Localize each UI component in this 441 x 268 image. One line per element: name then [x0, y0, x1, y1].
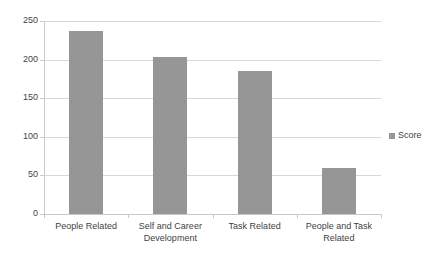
x-axis-label: Self and Career Development — [128, 221, 212, 244]
x-axis-category-labels: People RelatedSelf and Career Developmen… — [44, 221, 381, 261]
plot-area — [44, 21, 381, 214]
x-tick-mark-0 — [44, 214, 45, 218]
x-tick-mark-4 — [381, 214, 382, 218]
bar-chart: 050100150200250 People RelatedSelf and C… — [0, 0, 441, 268]
x-tick-mark-1 — [128, 214, 129, 218]
gridline-250 — [44, 21, 381, 22]
y-tick-mark-200 — [40, 60, 44, 61]
y-tick-label-50: 50 — [4, 170, 38, 179]
y-tick-label-250: 250 — [4, 16, 38, 25]
y-tick-label-150: 150 — [4, 93, 38, 102]
legend-label-score: Score — [398, 131, 422, 140]
x-axis-label: Task Related — [213, 221, 297, 233]
y-tick-mark-250 — [40, 21, 44, 22]
legend-swatch-score — [389, 133, 395, 139]
y-tick-label-100: 100 — [4, 132, 38, 141]
y-tick-label-0: 0 — [4, 209, 38, 218]
x-tick-mark-3 — [297, 214, 298, 218]
x-axis-label: People Related — [44, 221, 128, 233]
bar — [322, 168, 356, 214]
y-axis-tick-labels: 050100150200250 — [0, 0, 38, 268]
bar — [153, 57, 187, 214]
x-axis-label: People and Task Related — [297, 221, 381, 244]
x-tick-mark-2 — [213, 214, 214, 218]
y-tick-mark-150 — [40, 98, 44, 99]
y-tick-mark-50 — [40, 175, 44, 176]
legend: Score — [389, 131, 422, 140]
y-tick-label-200: 200 — [4, 55, 38, 64]
y-tick-mark-100 — [40, 137, 44, 138]
bar — [238, 71, 272, 214]
bar — [69, 31, 103, 214]
